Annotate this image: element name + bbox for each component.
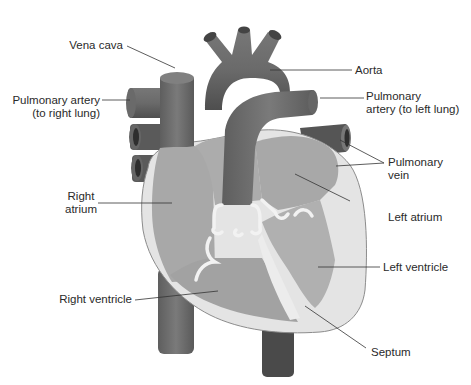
label-line-2: artery (to left lung) [366, 103, 459, 116]
label-line-1: Pulmonary [388, 156, 443, 169]
label-right-atrium: Right atrium [60, 190, 102, 216]
label-septum: Septum [371, 346, 411, 359]
label-right-ventricle: Right ventricle [40, 293, 132, 306]
label-aorta: Aorta [355, 64, 383, 77]
label-line-1: Pulmonary [366, 90, 459, 103]
label-vena-cava: Vena cava [58, 39, 123, 52]
label-line-2: atrium [60, 203, 102, 216]
label-pulmonary-vein: Pulmonary vein [388, 156, 443, 182]
label-line-2: vein [388, 169, 443, 182]
label-pulmonary-artery-right: Pulmonary artery (to right lung) [8, 94, 100, 120]
superior-vena-cava [160, 72, 194, 150]
label-line-1: Right [60, 190, 102, 203]
label-line-2: (to right lung) [8, 107, 100, 120]
label-pulmonary-artery-left: Pulmonary artery (to left lung) [366, 90, 459, 116]
label-left-ventricle: Left ventricle [383, 261, 448, 274]
label-left-atrium: Left atrium [388, 211, 442, 224]
label-line-1: Pulmonary artery [8, 94, 100, 107]
